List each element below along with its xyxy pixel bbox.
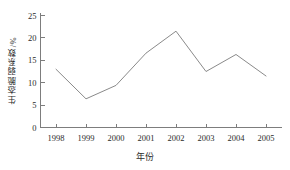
x-axis-title: 年份 [0,150,290,163]
x-axis-title-label: 年份 [136,152,155,162]
line-chart: 生态脆弱系数/% 0510152025 19981999200020012002… [0,0,290,170]
y-axis-ticks: 0510152025 [28,11,45,133]
y-tick-label: 15 [28,55,37,65]
x-tick-label: 2001 [138,133,155,143]
y-tick-label: 10 [28,78,37,88]
x-tick-label: 2000 [108,133,125,143]
x-tick-label: 2005 [258,133,275,143]
x-axis-ticks: 19981999200020012002200320042005 [48,124,275,143]
y-tick-label: 20 [28,33,37,43]
x-tick-label: 2004 [228,133,246,143]
y-tick-label: 5 [32,100,36,110]
y-tick-label: 25 [28,11,37,21]
data-series-line [56,31,266,99]
x-tick-label: 2003 [198,133,215,143]
y-tick-label: 0 [32,123,36,133]
x-tick-label: 1999 [78,133,95,143]
x-tick-label: 2002 [168,133,185,143]
x-tick-label: 1998 [48,133,65,143]
plot-area: 0510152025 19981999200020012002200320042… [0,0,290,170]
